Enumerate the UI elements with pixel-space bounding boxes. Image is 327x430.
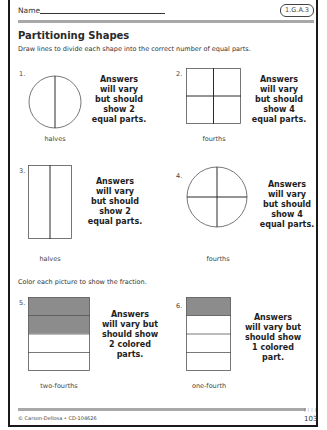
answer-text: Answerswill vary butshould show1 colored… (238, 313, 308, 363)
answer-text: Answerswill varybut shouldshow 2equal pa… (80, 177, 150, 227)
section-instructions: Draw lines to divide each shape into the… (18, 45, 251, 53)
answer-text: Answerswill vary butshould show2 colored… (95, 310, 165, 360)
name-label: Name (18, 6, 40, 15)
shape-caption: fourths (196, 255, 240, 263)
problem-number: 3. (19, 167, 25, 175)
shape-caption: fourths (196, 135, 232, 143)
problem-number: 2. (176, 70, 182, 78)
name-input-line[interactable] (40, 13, 165, 14)
square-fourths-shape[interactable] (186, 68, 241, 124)
shape-caption: halves (32, 255, 68, 263)
fraction-caption: two-fourths (34, 382, 84, 390)
answer-text: Answerswill varybut shouldshow 2equal pa… (84, 75, 154, 125)
page-number: 103 (304, 415, 317, 423)
problem-number: 6. (176, 302, 182, 310)
circle-halves-shape[interactable] (28, 75, 82, 129)
standard-badge: 1.G.A.3 (280, 4, 314, 17)
header-divider (18, 20, 314, 23)
problem-number: 5. (19, 299, 25, 307)
footer-divider (18, 408, 306, 411)
page-ticks: | | | | (304, 407, 317, 412)
shape-caption: halves (38, 135, 72, 143)
circle-fourths-shape[interactable] (186, 166, 248, 228)
fraction-bar-two-fourths[interactable] (28, 297, 90, 371)
fraction-bar-one-fourth[interactable] (186, 297, 231, 371)
coloring-instructions: Color each picture to show the fraction. (18, 278, 147, 286)
copyright-text: © Carson-Dellosa • CD-104626 (18, 415, 97, 421)
answer-text: Answerswill varybut shouldshow 4equal pa… (253, 180, 321, 230)
section-title: Partitioning Shapes (18, 30, 129, 41)
rectangle-halves-shape[interactable] (28, 165, 72, 239)
problem-number: 1. (19, 70, 25, 78)
problem-number: 4. (176, 172, 182, 180)
fraction-caption: one-fourth (186, 382, 232, 390)
answer-text: Answerswill varybut shouldshow 4equal pa… (244, 75, 314, 125)
